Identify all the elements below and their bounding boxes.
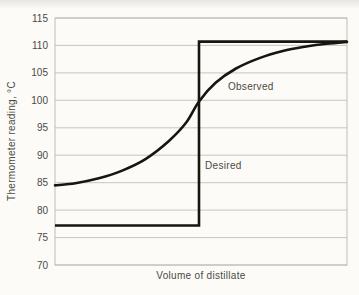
figure-page: 115110105100959085807570ObservedDesired … xyxy=(0,0,359,295)
y-tick-label: 100 xyxy=(31,95,48,106)
y-axis-title: Thermometer reading, °C xyxy=(6,81,17,201)
curve-label-observed: Observed xyxy=(228,81,274,92)
curve-label-desired: Desired xyxy=(205,160,242,171)
observed-curve xyxy=(55,42,347,186)
desired-curve xyxy=(55,42,347,226)
y-tick-label: 75 xyxy=(37,232,49,243)
y-tick-label: 115 xyxy=(32,13,48,24)
y-tick-label: 80 xyxy=(37,205,49,216)
y-tick-label: 110 xyxy=(32,40,48,51)
chart-plot-area: 115110105100959085807570ObservedDesired xyxy=(0,0,359,295)
y-tick-label: 105 xyxy=(31,67,48,78)
plot-border xyxy=(55,18,347,265)
x-axis-title: Volume of distillate xyxy=(55,270,347,281)
y-tick-label: 90 xyxy=(37,150,49,161)
y-tick-label: 70 xyxy=(37,260,49,271)
y-tick-label: 85 xyxy=(37,177,49,188)
y-tick-label: 95 xyxy=(37,122,49,133)
